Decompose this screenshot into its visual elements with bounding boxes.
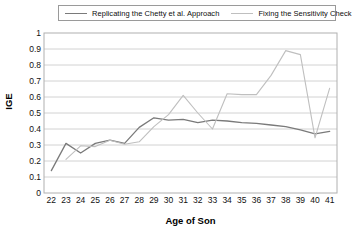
series-line-fixing [66,51,330,160]
series-line-replicating [51,118,329,171]
grid-lines [44,49,337,177]
